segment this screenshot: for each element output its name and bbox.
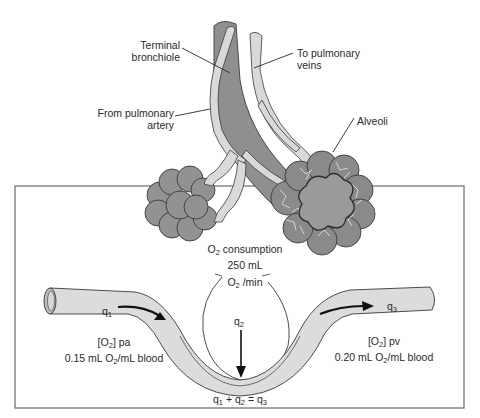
label-from-pulmonary-artery: From pulmonary artery: [90, 107, 174, 131]
text: ] pa: [113, 336, 131, 348]
label-line: veins: [297, 59, 360, 71]
fick-principle-diagram: Terminal bronchiole From pulmonary arter…: [0, 0, 480, 418]
consumption-line-2: 250 mL: [195, 259, 295, 271]
label-q1: q1: [102, 305, 112, 321]
text: [O: [98, 336, 109, 348]
right-alveoli-cluster: [271, 151, 375, 255]
text: consumption: [220, 243, 282, 255]
consumption-line-3: O2 /min: [195, 276, 295, 292]
pa-concentration: [O2] pa: [52, 336, 176, 352]
artery-branch-left: [204, 150, 238, 186]
subscript: 1: [108, 310, 112, 319]
label-terminal-bronchiole: Terminal bronchiole: [128, 39, 180, 63]
pv-value: 0.20 mL O2/mL blood: [322, 351, 446, 367]
label-line: From pulmonary: [90, 107, 174, 119]
consumption-line-1: O2 consumption: [195, 243, 295, 259]
pv-concentration: [O2] pv: [322, 335, 446, 351]
label-q2: q2: [234, 315, 244, 331]
pa-value: 0.15 mL O2/mL blood: [52, 352, 176, 368]
text: O: [227, 276, 235, 288]
text: =: [245, 393, 257, 405]
label-line: bronchiole: [128, 51, 180, 63]
label-line: artery: [90, 119, 174, 131]
label-o2-consumption: O2 consumption 250 mL O2 /min: [195, 243, 295, 292]
text: /min: [240, 276, 263, 288]
label-alveoli: Alveoli: [357, 115, 388, 127]
label-pulmonary-vein-o2: [O2] pv 0.20 mL O2/mL blood: [322, 335, 446, 367]
left-alveoli-cluster: [145, 166, 217, 241]
label-pulmonary-artery-o2: [O2] pa 0.15 mL O2/mL blood: [52, 336, 176, 368]
label-line: To pulmonary: [297, 47, 360, 59]
label-to-pulmonary-veins: To pulmonary veins: [297, 47, 360, 71]
text: 0.15 mL O: [65, 352, 114, 364]
text: O: [208, 243, 216, 255]
subscript: 2: [240, 320, 244, 329]
text: ] pv: [383, 335, 400, 347]
subscript: 3: [263, 398, 267, 407]
text: [O: [368, 335, 379, 347]
subscript: 3: [393, 305, 397, 314]
flow-equation: q1 + q2 = q3: [190, 393, 290, 409]
text: +: [223, 393, 235, 405]
text: /mL blood: [118, 352, 164, 364]
text: /mL blood: [388, 351, 434, 363]
label-line: Terminal: [128, 39, 180, 51]
text: 0.20 mL O: [335, 351, 384, 363]
label-q3: q3: [387, 300, 397, 316]
